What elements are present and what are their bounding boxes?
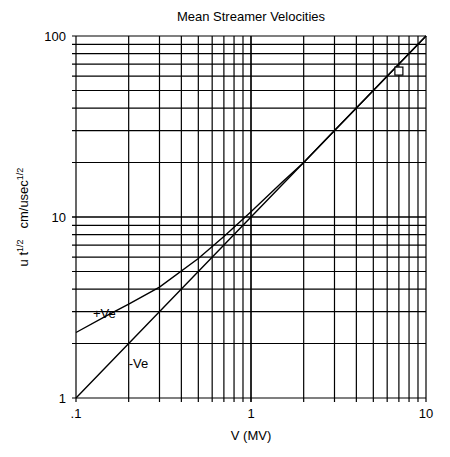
x-tick-label: 1 [247, 406, 254, 421]
x-tick-label: 10 [419, 406, 433, 421]
series-label: +Ve [93, 306, 116, 321]
data-markers [395, 67, 403, 75]
chart-title: Mean Streamer Velocities [76, 9, 426, 24]
x-tick-label: .1 [71, 406, 82, 421]
x-axis-label: V (MV) [76, 428, 426, 443]
series-label: -Ve [129, 356, 149, 371]
y-tick-label: 10 [52, 210, 66, 225]
y-tick-label: 100 [44, 29, 66, 44]
y-axis-label: u t1/2 cm/usec1/2 [15, 168, 31, 267]
square-marker [395, 67, 403, 75]
chart-plot [0, 0, 450, 457]
y-tick-label: 1 [59, 391, 66, 406]
